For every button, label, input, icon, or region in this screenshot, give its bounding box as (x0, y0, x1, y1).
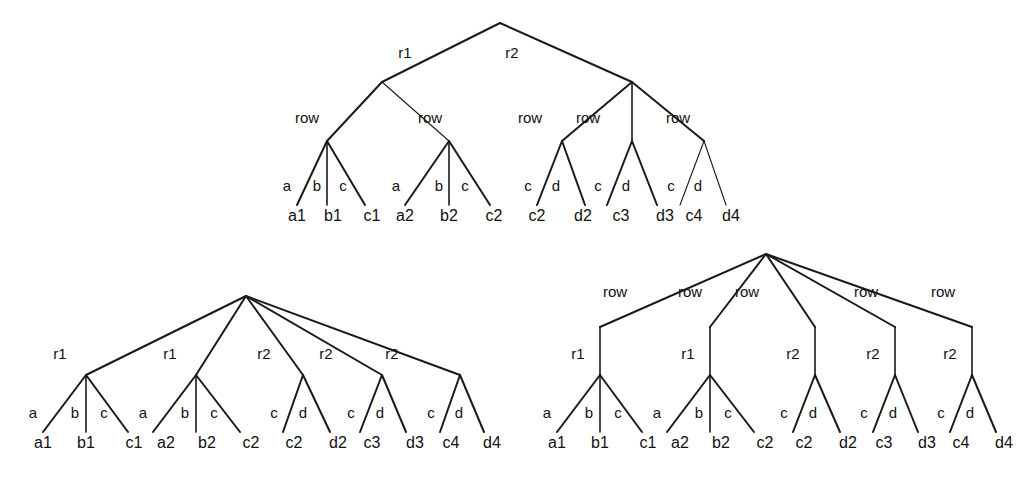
top-tree-leaf-d4: d4 (722, 207, 740, 224)
top-tree-edge-label-row-5: row (666, 109, 690, 126)
top-tree-r1-to-row1-edge (327, 82, 382, 141)
tree-diagrams-canvas: r1r2rowrowrowrowrowabcabccdcdcda1b1c1a2b… (0, 0, 1026, 487)
top-tree: r1r2rowrowrowrowrowabcabccdcdcda1b1c1a2b… (283, 23, 740, 224)
bottom-right-tree-root-to-row3-edge (766, 254, 815, 327)
top-tree-edge-label-d-2: d (622, 177, 630, 194)
bottom-right-tree-edge-label-a-2: a (653, 404, 662, 421)
top-tree-leaf-a2: a2 (396, 207, 414, 224)
bottom-right-tree-edge-label-r2-1: r2 (786, 345, 799, 362)
bottom-left-tree-leaf-c4: c4 (443, 434, 460, 451)
top-tree-edge-label-c-4: c (594, 177, 602, 194)
bottom-left-tree-edge-label-d-3: d (455, 404, 463, 421)
bottom-left-tree-leaf-d3: d3 (406, 434, 424, 451)
top-tree-leaf-a1: a1 (288, 207, 306, 224)
top-tree-leaf-c1: c1 (364, 207, 381, 224)
top-tree-edge-label-r2: r2 (505, 44, 518, 61)
bottom-right-tree-edges (557, 254, 996, 432)
bottom-left-tree-edge-label-b-2: b (181, 404, 189, 421)
bottom-left-tree-edges (43, 296, 484, 432)
top-tree-leaf-d3: d3 (656, 207, 674, 224)
bottom-right-tree-edge-label-row-2: row (678, 283, 702, 300)
bottom-right-tree-leaf-b2: b2 (712, 434, 730, 451)
top-tree-leaf-d2: d2 (574, 207, 592, 224)
bottom-right-tree-leaves: a1b1c1a2b2c2c2d2c3d3c4d4 (548, 434, 1013, 451)
bottom-right-tree-edge-label-d-3: d (966, 404, 974, 421)
top-tree-edge-label-a-2: a (392, 177, 401, 194)
bottom-right-tree: rowrowrowrowrowr1r1r2r2r2abcabccdcdcda1b… (543, 254, 1013, 451)
bottom-left-tree-root-to-r2a-edge (246, 296, 303, 375)
bottom-left-tree-r1a-to-a1-edge (43, 375, 86, 432)
bottom-right-tree-leaf-c3: c3 (876, 434, 893, 451)
bottom-right-tree-r2c-to-d4-edge (972, 375, 996, 432)
bottom-left-tree-root-to-r2b-edge (246, 296, 382, 375)
bottom-left-tree-edge-label-b-1: b (71, 404, 79, 421)
figure-root: r1r2rowrowrowrowrowabcabccdcdcda1b1c1a2b… (0, 0, 1026, 487)
bottom-right-tree-edge-label-r2-2: r2 (866, 345, 879, 362)
bottom-left-tree-edge-labels: r1r1r2r2r2abcabccdcdcd (29, 345, 463, 421)
top-tree-edge-label-c-1: c (339, 177, 347, 194)
bottom-left-tree: r1r1r2r2r2abcabccdcdcda1b1c1a2b2c2c2d2c3… (29, 296, 501, 451)
bottom-left-tree-edge-label-d-1: d (299, 404, 307, 421)
bottom-right-tree-r1b-to-c2-edge (710, 375, 754, 432)
top-tree-edge-label-d-3: d (694, 177, 702, 194)
bottom-left-tree-edge-label-r2-1: r2 (257, 345, 270, 362)
bottom-left-tree-leaf-d2: d2 (329, 434, 347, 451)
top-tree-edge-label-c-5: c (667, 177, 675, 194)
bottom-right-tree-leaf-b1: b1 (591, 434, 609, 451)
bottom-right-tree-leaf-c2: c2 (757, 434, 774, 451)
bottom-right-tree-edge-label-c-3: c (780, 404, 788, 421)
bottom-right-tree-leaf-c1: c1 (640, 434, 657, 451)
bottom-right-tree-edge-label-d-2: d (889, 404, 897, 421)
bottom-left-tree-edge-label-c-1: c (100, 404, 108, 421)
top-tree-edge-label-c-3: c (524, 177, 532, 194)
bottom-left-tree-leaf-b2: b2 (198, 434, 216, 451)
top-tree-leaves: a1b1c1a2b2c2c2d2c3d3c4d4 (288, 207, 740, 224)
bottom-right-tree-edge-label-d-1: d (809, 404, 817, 421)
bottom-right-tree-r2b-to-d3-edge (895, 375, 918, 432)
top-tree-edge-label-b-2: b (435, 177, 443, 194)
top-tree-leaf-c2: c2 (486, 207, 503, 224)
bottom-right-tree-leaf-a2: a2 (671, 434, 689, 451)
bottom-right-tree-edge-label-a-1: a (543, 404, 552, 421)
top-tree-row1-to-c1-edge (327, 141, 365, 205)
bottom-left-tree-leaf-a2: a2 (157, 434, 175, 451)
top-tree-leaf-b1: b1 (324, 207, 342, 224)
bottom-right-tree-edge-label-r2-3: r2 (943, 345, 956, 362)
top-tree-row5-to-c4-edge (680, 141, 704, 205)
bottom-right-tree-edge-label-row-5: row (931, 283, 955, 300)
bottom-left-tree-edge-label-r2-3: r2 (385, 345, 398, 362)
bottom-left-tree-edge-label-c-4: c (347, 404, 355, 421)
bottom-left-tree-root-to-r2c-edge (246, 296, 460, 375)
bottom-left-tree-edge-label-a-2: a (139, 404, 148, 421)
bottom-left-tree-edge-label-a-1: a (29, 404, 38, 421)
top-tree-leaf-c3: c3 (613, 207, 630, 224)
bottom-left-tree-edge-label-r2-2: r2 (319, 345, 332, 362)
bottom-left-tree-leaf-c3: c3 (364, 434, 381, 451)
bottom-left-tree-leaf-d4: d4 (483, 434, 501, 451)
bottom-left-tree-r2c-to-d4-edge (460, 375, 484, 432)
bottom-left-tree-leaf-a1: a1 (34, 434, 52, 451)
bottom-right-tree-leaf-c4: c4 (953, 434, 970, 451)
bottom-left-tree-leaf-c1: c1 (126, 434, 143, 451)
bottom-right-tree-edge-label-c-5: c (937, 404, 945, 421)
bottom-right-tree-r1a-to-a1-edge (557, 375, 600, 432)
top-tree-row4-to-c3-edge (607, 141, 632, 205)
top-tree-row1-to-a1-edge (297, 141, 327, 205)
bottom-left-tree-leaves: a1b1c1a2b2c2c2d2c3d3c4d4 (34, 434, 501, 451)
top-tree-row3-to-c2-edge (537, 141, 562, 205)
bottom-left-tree-r1b-to-c2-edge (196, 375, 240, 432)
top-tree-edge-label-b-1: b (313, 177, 321, 194)
top-tree-edge-label-r1: r1 (398, 44, 411, 61)
bottom-right-tree-edge-label-row-4: row (854, 283, 878, 300)
top-tree-row5-to-d4-edge (704, 141, 726, 205)
bottom-right-tree-edge-labels: rowrowrowrowrowr1r1r2r2r2abcabccdcdcd (543, 283, 974, 421)
bottom-left-tree-leaf-c2: c2 (243, 434, 260, 451)
top-tree-edge-label-row-3: row (518, 109, 542, 126)
top-tree-row2-to-a2-edge (405, 141, 449, 205)
top-tree-row2-to-c2-edge (449, 141, 490, 205)
top-tree-root-to-r2-edge (500, 23, 632, 82)
bottom-left-tree-leaf-c2-b: c2 (286, 434, 303, 451)
bottom-right-tree-leaf-a1: a1 (548, 434, 566, 451)
top-tree-leaf-c2-b: c2 (529, 207, 546, 224)
bottom-left-tree-edge-label-c-3: c (270, 404, 278, 421)
